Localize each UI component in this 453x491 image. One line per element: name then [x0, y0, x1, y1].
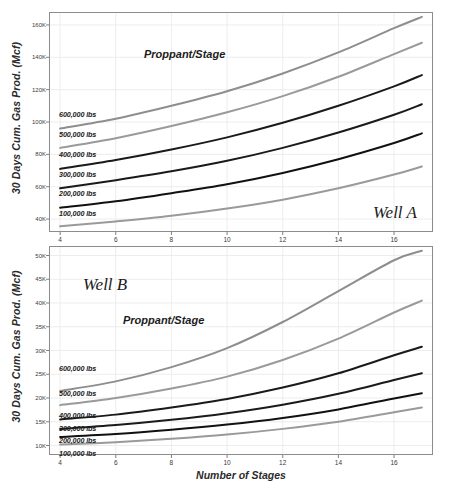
y-tick-label: 140K [25, 54, 46, 60]
series-line-600000lbs [60, 251, 422, 391]
y-tick-label: 10K [25, 443, 46, 449]
series-label: 400,000 lbs [59, 150, 96, 159]
series-line-300000lbs [60, 104, 422, 188]
x-tick-label: 10 [223, 236, 230, 243]
y-axis-title: 30 Days Cum. Gas Prod. (Mcf) [10, 8, 22, 228]
x-tick-label: 8 [170, 459, 174, 466]
y-tick-label: 25K [25, 371, 46, 377]
text-layer-well-a: 40K60K80K100K120K140K160K4681012141630 D… [0, 0, 453, 491]
text-layer-well-b: 10K15K20K25K30K35K40K45K50K4681012141630… [0, 0, 453, 491]
plot-frame-well-b [50, 247, 433, 455]
series-line-100000lbs [60, 166, 422, 226]
series-label: 100,000 lbs [59, 209, 96, 218]
x-tick-label: 16 [390, 459, 397, 466]
plot-canvas-well-b [0, 0, 453, 491]
y-tick-label: 35K [25, 324, 46, 330]
y-tick-label: 15K [25, 419, 46, 425]
series-line-500000lbs [60, 43, 422, 148]
x-tick-label: 6 [114, 236, 118, 243]
y-tick-label: 50K [25, 253, 46, 259]
series-label: 100,000 lbs [59, 449, 96, 458]
series-label: 400,000 lbs [59, 411, 96, 420]
y-tick-label: 20K [25, 395, 46, 401]
series-label: 500,000 lbs [59, 389, 96, 398]
series-label: 600,000 lbs [59, 364, 96, 373]
x-tick-label: 4 [58, 459, 62, 466]
chart-panel-well-a: 40K60K80K100K120K140K160K4681012141630 D… [0, 0, 453, 491]
x-tick-label: 12 [279, 236, 286, 243]
gridlines-well-a [49, 12, 433, 232]
series-line-200000lbs [60, 393, 422, 437]
gridlines-well-b [49, 246, 433, 455]
series-line-400000lbs [60, 75, 422, 169]
series-line-200000lbs [60, 133, 422, 207]
y-tick-label: 80K [25, 151, 46, 157]
x-tick-label: 14 [335, 459, 342, 466]
series-line-500000lbs [60, 301, 422, 406]
series-line-100000lbs [60, 408, 422, 445]
plot-frame-well-a [50, 13, 433, 232]
figure-root: 40K60K80K100K120K140K160K4681012141630 D… [0, 0, 453, 491]
y-tick-label: 60K [25, 184, 46, 190]
y-tick-label: 160K [25, 22, 46, 28]
series-label: 300,000 lbs [59, 170, 96, 179]
y-tick-label: 45K [25, 276, 46, 282]
series-label: 200,000 lbs [59, 436, 96, 445]
plot-canvas-well-a [0, 0, 453, 491]
series-line-400000lbs [60, 347, 422, 420]
well-title-well-b: Well B [83, 275, 127, 295]
series-line-300000lbs [60, 373, 422, 429]
x-tick-label: 16 [390, 236, 397, 243]
y-tick-label: 100K [25, 119, 46, 125]
series-label: 200,000 lbs [59, 189, 96, 198]
x-axis-title: Number of Stages [49, 469, 433, 481]
y-tick-label: 40K [25, 216, 46, 222]
x-tick-label: 10 [223, 459, 230, 466]
series-label: 600,000 lbs [59, 110, 96, 119]
series-line-600000lbs [60, 17, 422, 129]
proppant-stage-annotation: Proppant/Stage [144, 48, 225, 60]
y-tick-label: 120K [25, 87, 46, 93]
x-tick-label: 8 [170, 236, 174, 243]
y-tick-label: 30K [25, 348, 46, 354]
proppant-stage-annotation: Proppant/Stage [123, 314, 204, 326]
x-tick-label: 6 [114, 459, 118, 466]
series-label: 500,000 lbs [59, 130, 96, 139]
y-tick-label: 40K [25, 300, 46, 306]
series-label: 300,000 lbs [59, 424, 96, 433]
y-axis-title: 30 Days Cum. Gas Prod. (Mcf) [10, 242, 22, 451]
x-tick-label: 14 [335, 236, 342, 243]
chart-panel-well-b: 10K15K20K25K30K35K40K45K50K4681012141630… [0, 0, 453, 491]
x-tick-label: 12 [279, 459, 286, 466]
well-title-well-a: Well A [373, 203, 417, 223]
x-tick-label: 4 [58, 236, 62, 243]
